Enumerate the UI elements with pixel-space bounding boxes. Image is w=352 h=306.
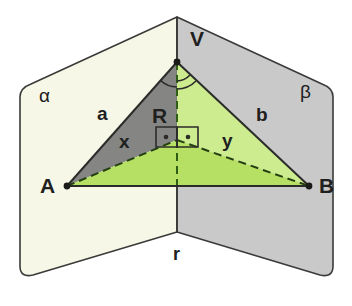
right-angle-right-dot-icon (186, 135, 191, 140)
right-angle-left-dot-icon (164, 135, 169, 140)
point-b-dot (306, 183, 313, 190)
geometry-figure: V A B R a b x y α β r (0, 0, 352, 306)
label-segment-y: y (222, 131, 233, 150)
label-plane-beta: β (300, 82, 311, 101)
label-segment-a: a (97, 104, 108, 123)
label-vertex-a: A (40, 175, 55, 196)
label-vertex-r: R (152, 105, 167, 126)
label-plane-alpha: α (39, 86, 50, 105)
point-v-dot (174, 59, 181, 66)
point-a-dot (64, 183, 71, 190)
label-segment-x: x (119, 132, 130, 151)
label-line-r: r (173, 245, 180, 263)
label-vertex-b: B (319, 175, 334, 196)
label-segment-b: b (256, 105, 268, 124)
label-vertex-v: V (190, 28, 204, 49)
